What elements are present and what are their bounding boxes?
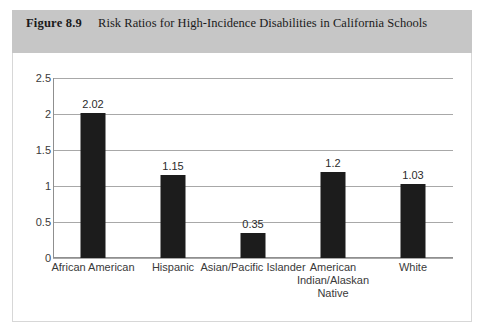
figure-header-inner: Figure 8.9 Risk Ratios for High-Incidenc… bbox=[26, 16, 462, 31]
bar-slot: 2.02 bbox=[53, 78, 133, 258]
figure-body: 00.511.522.5 2.021.150.351.21.03 African… bbox=[12, 53, 472, 322]
y-axis-tick-label: 0.5 bbox=[17, 217, 51, 228]
y-axis-tick-labels: 00.511.522.5 bbox=[13, 78, 51, 258]
bar[interactable] bbox=[241, 233, 266, 258]
bar-value-label: 0.35 bbox=[242, 218, 263, 230]
bar-chart: 00.511.522.5 2.021.150.351.21.03 African… bbox=[13, 53, 473, 322]
bar[interactable] bbox=[161, 175, 186, 258]
x-axis-category-labels: African AmericanHispanicAsian/Pacific Is… bbox=[53, 261, 453, 309]
figure-container: Figure 8.9 Risk Ratios for High-Incidenc… bbox=[0, 0, 490, 334]
bar-slot: 1.03 bbox=[373, 78, 453, 258]
bar[interactable] bbox=[321, 172, 346, 258]
bar-value-label: 2.02 bbox=[82, 98, 103, 110]
plot-area: 2.021.150.351.21.03 bbox=[53, 78, 453, 258]
gridline bbox=[53, 258, 453, 259]
bars-layer: 2.021.150.351.21.03 bbox=[53, 78, 453, 258]
figure-title: Risk Ratios for High-Incidence Disabilit… bbox=[98, 16, 462, 31]
x-axis-label: White bbox=[360, 261, 466, 274]
bar[interactable] bbox=[401, 184, 426, 258]
bar-slot: 1.2 bbox=[293, 78, 373, 258]
y-axis-tick-label: 1.5 bbox=[17, 145, 51, 156]
y-axis-tick-label: 2.5 bbox=[17, 73, 51, 84]
bar-value-label: 1.03 bbox=[402, 169, 423, 181]
bar-slot: 1.15 bbox=[133, 78, 213, 258]
y-axis-tick-label: 1 bbox=[17, 181, 51, 192]
figure-header-band: Figure 8.9 Risk Ratios for High-Incidenc… bbox=[12, 10, 472, 53]
figure-number: Figure 8.9 bbox=[26, 16, 98, 31]
bar-value-label: 1.2 bbox=[325, 157, 340, 169]
y-axis-tick-label: 2 bbox=[17, 109, 51, 120]
bar-value-label: 1.15 bbox=[162, 160, 183, 172]
bar[interactable] bbox=[81, 113, 106, 258]
bar-slot: 0.35 bbox=[213, 78, 293, 258]
